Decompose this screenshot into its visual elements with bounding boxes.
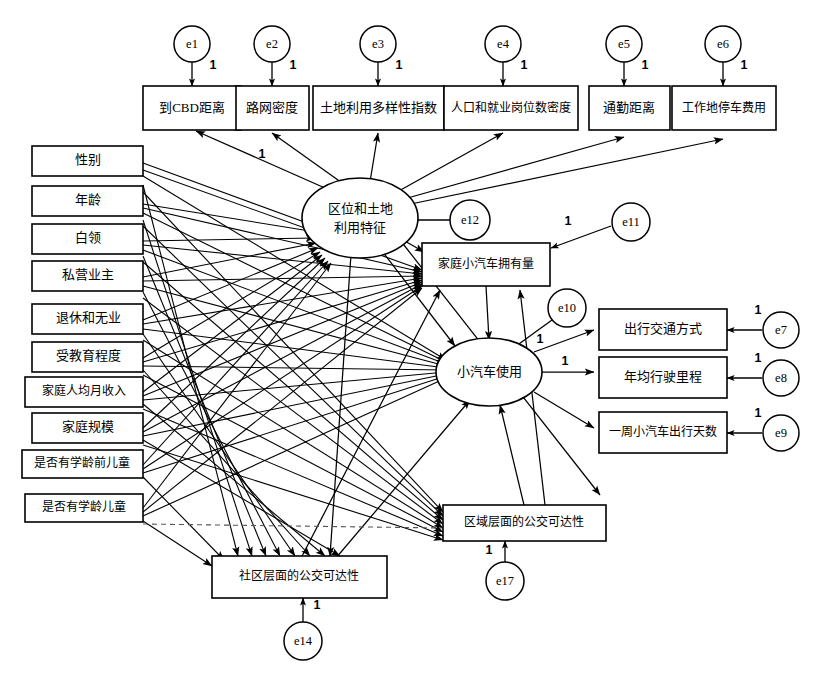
error-node-e7[interactable]: e7 1 [755,303,799,348]
error-label-e9: e9 [775,426,787,440]
error-fixed-value-e5: 1 [642,58,649,72]
error-label-e11: e11 [622,215,640,229]
error-node-e1[interactable]: e1 1 [174,26,217,72]
error-node-e5[interactable]: e5 1 [606,26,649,72]
error-label-e10: e10 [558,301,576,315]
error-label-e4: e4 [497,37,510,51]
error-node-e2[interactable]: e2 1 [254,26,297,72]
latent-ellipse-car-use[interactable]: 小汽车使用 [436,338,542,406]
error-label-e6: e6 [717,37,729,51]
exogenous-label-x7: 家庭人均月收入 [42,383,126,398]
indicator-label-y3: 土地利用多样性指数 [320,100,437,115]
exogenous-box-x5[interactable]: 退休和无业 [32,304,143,334]
path-arrow-latent1-to-community [330,240,352,556]
error-label-e3: e3 [372,37,384,51]
exogenous-box-x4[interactable]: 私营业主 [32,261,143,291]
indicator-box-y2[interactable]: 路网密度 [236,86,309,130]
fixed-loading-label-latent2: 1 [562,354,569,368]
exogenous-box-x2[interactable]: 年龄 [32,186,143,216]
indicator-label-y8: 年均行驶里程 [624,369,702,384]
exogenous-label-x1: 性别 [75,152,101,167]
error-fixed-value-e9: 1 [755,406,762,420]
exogenous-box-x6[interactable]: 受教育程度 [32,342,143,372]
error-label-e5: e5 [618,37,630,51]
error-fixed-value-e17: 1 [486,543,493,557]
latent-label-L1-line1: 区位和土地 [328,201,393,216]
error-label-e1: e1 [186,37,198,51]
error-label-e17: e17 [496,574,514,588]
endogenous-box-regional-access[interactable]: 区域层面的公交可达性 [443,505,606,541]
indicator-box-y8[interactable]: 年均行驶里程 [599,357,727,398]
exogenous-box-x3[interactable]: 白领 [32,224,143,254]
error-fixed-value-e7: 1 [755,303,762,317]
exogenous-label-x9: 是否有学龄前儿童 [34,455,130,470]
endogenous-box-car-ownership[interactable]: 家庭小汽车拥有量 [422,243,550,286]
indicator-box-y7[interactable]: 出行交通方式 [599,309,727,350]
endogenous-box-community-access[interactable]: 社区层面的公交可达性 [212,556,387,598]
indicator-label-y1: 到CBD距离 [159,100,225,115]
paths-exogenous-to-community-access [143,185,340,566]
error-fixed-value-e4: 1 [521,58,528,72]
error-node-e3[interactable]: e3 1 [360,26,403,72]
exogenous-box-x8[interactable]: 家庭规模 [32,413,143,443]
exogenous-label-x5: 退休和无业 [56,310,121,325]
error-arrow-e11-to-carownership [551,226,611,248]
indicator-label-y7: 出行交通方式 [624,321,702,336]
path-arrows-latent1-to-indicators [196,131,723,205]
latent-label-L2: 小汽车使用 [457,364,522,379]
indicator-label-y6: 工作地停车费用 [682,100,766,115]
error-node-e4[interactable]: e4 1 [485,26,528,72]
latent-ellipse-location-landuse[interactable]: 区位和土地 利用特征 [302,178,418,258]
fixed-loading-label-latent1: 1 [259,147,266,161]
indicator-label-y4: 人口和就业岗位数密度 [451,100,571,115]
indicator-box-y3[interactable]: 土地利用多样性指数 [313,86,444,130]
endogenous-label-community-access: 社区层面的公交可达性 [239,568,359,583]
exogenous-box-x1[interactable]: 性别 [32,146,143,176]
indicator-box-y1[interactable]: 到CBD距离 [143,86,241,130]
error-fixed-value-e6: 1 [741,58,748,72]
error-fixed-value-e2: 1 [290,58,297,72]
error-fixed-value-e1: 1 [210,58,217,72]
error-fixed-value-e8: 1 [755,351,762,365]
indicator-box-y6[interactable]: 工作地停车费用 [672,86,776,130]
indicator-box-y5[interactable]: 通勤距离 [589,86,670,130]
path-arrow-regional-to-caruse [500,405,524,505]
error-label-e7: e7 [775,323,787,337]
error-label-e8: e8 [775,371,787,385]
exogenous-label-x3: 白领 [75,230,101,245]
error-label-e12: e12 [461,213,479,227]
error-node-e9[interactable]: e9 1 [755,406,799,451]
error-node-e12[interactable]: e12 [450,200,490,240]
exogenous-box-x10[interactable]: 是否有学龄儿童 [25,494,143,522]
diagram-canvas: 到CBD距离 路网密度 土地利用多样性指数 人口和就业岗位数密度 通勤距离 工作… [0,0,817,682]
error-fixed-value-e11: 1 [565,214,572,228]
exogenous-label-x2: 年龄 [75,192,101,207]
indicator-box-y4[interactable]: 人口和就业岗位数密度 [444,86,578,130]
error-node-e10[interactable]: e10 1 [537,289,586,346]
error-node-e11[interactable]: e11 1 [565,203,650,241]
indicator-box-y9[interactable]: 一周小汽车出行天数 [599,412,727,453]
endogenous-label-car-ownership: 家庭小汽车拥有量 [438,256,534,271]
exogenous-box-x7[interactable]: 家庭人均月收入 [25,377,143,407]
error-node-e6[interactable]: e6 1 [705,26,748,72]
exogenous-label-x8: 家庭规模 [62,419,114,434]
exogenous-box-x9[interactable]: 是否有学龄前儿童 [22,450,143,478]
error-node-e8[interactable]: e8 1 [755,351,799,396]
indicator-label-y2: 路网密度 [246,100,298,115]
error-label-e2: e2 [266,37,278,51]
path-arrow-carownership-to-caruse [486,286,489,340]
error-fixed-value-e10: 1 [537,332,544,346]
latent-label-L1-line2: 利用特征 [334,220,386,235]
endogenous-label-regional-access: 区域层面的公交可达性 [464,514,584,529]
error-label-e14: e14 [294,634,313,648]
indicator-label-y9: 一周小汽车出行天数 [609,424,717,439]
exogenous-label-x6: 受教育程度 [56,348,121,363]
exogenous-label-x10: 是否有学龄儿童 [42,499,126,514]
indicator-label-y5: 通勤距离 [603,100,655,115]
exogenous-label-x4: 私营业主 [62,267,114,282]
error-fixed-value-e3: 1 [396,58,403,72]
sem-path-diagram: 到CBD距离 路网密度 土地利用多样性指数 人口和就业岗位数密度 通勤距离 工作… [0,0,817,682]
error-fixed-value-e14: 1 [314,598,321,612]
